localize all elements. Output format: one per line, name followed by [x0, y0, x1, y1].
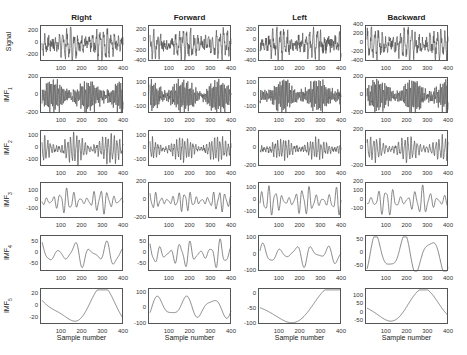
x-tick-label: 300 [92, 117, 112, 123]
x-axis-label: Sample number [362, 334, 452, 341]
x-tick-label: 200 [397, 275, 417, 281]
y-tick-label: 200 [345, 73, 363, 79]
row-label: IMF3 [3, 180, 12, 220]
x-tick-label: 100 [51, 117, 71, 123]
subplot-signal-forward [148, 25, 231, 61]
waveform-line [259, 236, 342, 272]
column-title: Left [255, 13, 345, 22]
subplot-imf3-forward [148, 182, 231, 218]
column-title: Forward [145, 13, 235, 22]
x-tick-label: 100 [269, 117, 289, 123]
x-tick-label: 200 [290, 117, 310, 123]
y-tick-label: 0 [20, 196, 38, 202]
x-tick-label: 100 [51, 65, 71, 71]
y-tick-label: -50 [345, 317, 363, 323]
subplot-imf2-left [258, 130, 341, 166]
y-tick-label: 0 [238, 290, 256, 296]
x-tick-label: 100 [159, 170, 179, 176]
subplot-imf3-left [258, 182, 341, 218]
subplot-imf4-backward [365, 235, 448, 271]
subplot-imf5-left [258, 288, 341, 324]
waveform-line [259, 131, 342, 167]
x-tick-label: 300 [310, 170, 330, 176]
y-tick-label: 0 [238, 91, 256, 97]
y-tick-label: 400 [345, 21, 363, 27]
y-tick-label: -100 [20, 205, 38, 211]
x-tick-label: 200 [180, 170, 200, 176]
y-tick-label: 100 [128, 289, 146, 295]
row-label: IMF2 [3, 128, 12, 168]
x-tick-label: 100 [376, 117, 396, 123]
y-tick-label: 200 [345, 178, 363, 184]
waveform-line [366, 183, 449, 219]
waveform-line [366, 26, 449, 62]
x-tick-label: 400 [438, 328, 458, 334]
y-tick-label: -200 [345, 48, 363, 54]
x-tick-label: 200 [397, 117, 417, 123]
subplot-signal-backward [365, 25, 448, 61]
y-tick-label: -200 [20, 109, 38, 115]
waveform-line [41, 26, 124, 62]
x-tick-label: 200 [290, 275, 310, 281]
x-tick-label: 100 [51, 328, 71, 334]
x-tick-label: 200 [290, 65, 310, 71]
waveform-line [259, 78, 342, 114]
x-tick-label: 100 [51, 222, 71, 228]
y-tick-label: 0 [128, 196, 146, 202]
x-tick-label: 200 [180, 222, 200, 228]
subplot-imf1-forward [148, 77, 231, 113]
x-tick-label: 300 [92, 222, 112, 228]
x-tick-label: 400 [438, 170, 458, 176]
y-tick-label: 0 [128, 36, 146, 42]
waveform-line [149, 289, 232, 325]
x-tick-label: 100 [376, 222, 396, 228]
subplot-signal-left [258, 25, 341, 61]
subplot-imf5-backward [365, 288, 448, 324]
y-tick-label: 0 [345, 249, 363, 255]
y-tick-label: -200 [238, 162, 256, 168]
y-tick-label: 0 [128, 144, 146, 150]
y-tick-label: 100 [345, 292, 363, 298]
y-tick-label: 0 [345, 91, 363, 97]
y-tick-label: 0 [345, 196, 363, 202]
y-tick-label: 0 [345, 39, 363, 45]
y-tick-label: 200 [128, 26, 146, 32]
waveform-line [259, 26, 342, 62]
x-tick-label: 300 [200, 117, 220, 123]
waveform-line [149, 26, 232, 62]
x-tick-label: 300 [200, 222, 220, 228]
x-tick-label: 100 [269, 275, 289, 281]
x-tick-label: 100 [159, 222, 179, 228]
x-tick-label: 200 [397, 65, 417, 71]
column-title: Right [37, 13, 127, 22]
y-tick-label: 0 [345, 144, 363, 150]
y-tick-label: 0 [20, 302, 38, 308]
y-tick-label: 0 [345, 309, 363, 315]
waveform-line [259, 289, 342, 325]
y-tick-label: -400 [345, 57, 363, 63]
y-tick-label: 0 [20, 91, 38, 97]
row-label: IMF5 [3, 286, 12, 326]
x-tick-label: 200 [290, 170, 310, 176]
subplot-imf1-right [40, 77, 123, 113]
waveform-line [366, 289, 449, 325]
x-tick-label: 200 [397, 170, 417, 176]
waveform-line [149, 236, 232, 272]
x-tick-label: 300 [417, 170, 437, 176]
x-tick-label: 400 [221, 222, 241, 228]
x-tick-label: 200 [72, 222, 92, 228]
x-tick-label: 300 [417, 222, 437, 228]
x-tick-label: 300 [92, 170, 112, 176]
subplot-imf4-left [258, 235, 341, 271]
x-tick-label: 100 [376, 65, 396, 71]
waveform-line [41, 289, 124, 325]
x-tick-label: 200 [180, 275, 200, 281]
x-tick-label: 400 [221, 117, 241, 123]
y-tick-label: 0 [20, 39, 38, 45]
x-tick-label: 400 [113, 222, 133, 228]
x-tick-label: 400 [113, 170, 133, 176]
waveform-line [259, 183, 342, 219]
subplot-imf2-forward [148, 130, 231, 166]
x-tick-label: 100 [51, 170, 71, 176]
subplot-imf3-right [40, 182, 123, 218]
